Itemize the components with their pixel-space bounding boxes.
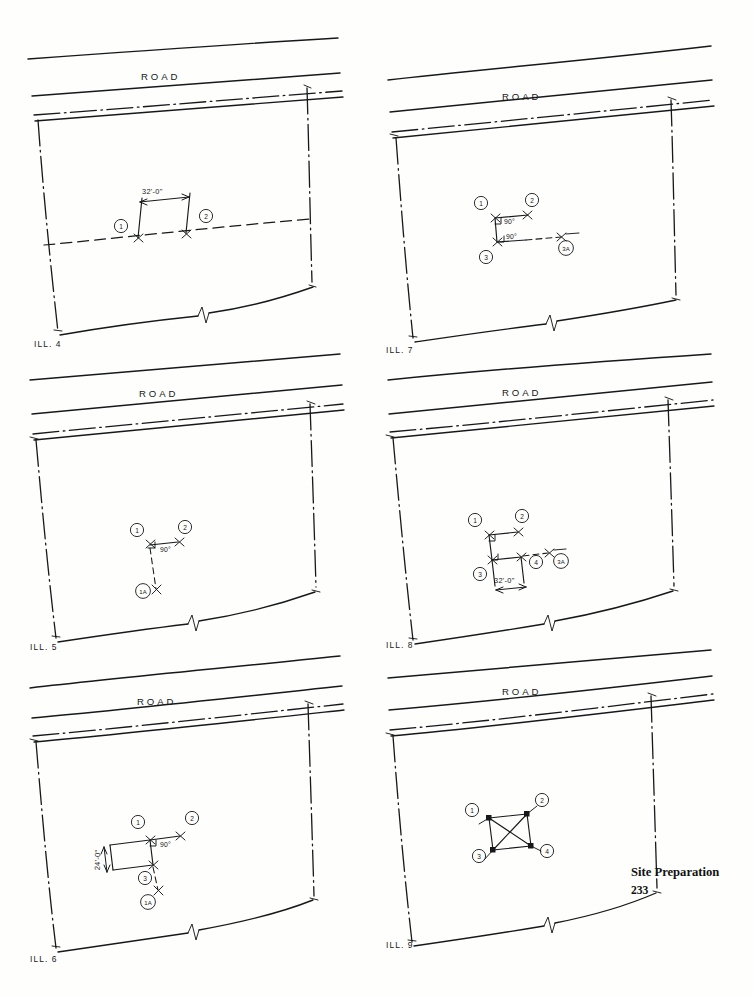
point-label-1A: 1A [144,900,151,906]
right-property-line [307,88,312,282]
point-label-1: 1 [473,517,477,524]
offset-line-pt1 [138,198,142,238]
road-label: ROAD [137,696,176,707]
point-label-2: 2 [520,513,524,520]
road-far-edge [388,650,711,678]
left-property-line [36,742,56,948]
road-label: ROAD [139,388,178,399]
rear-property-line-left [414,926,544,946]
stake-1 [486,815,492,821]
point-marker-3: 3 [479,250,492,263]
layout-line-4-down [521,557,524,583]
layout-line-1-3 [150,840,153,865]
rear-property-line-right [199,900,313,930]
building-setback-line [44,219,310,245]
road-near-edge [32,686,342,718]
leader-line-3A [526,237,561,240]
ill8-drawing: 32'-0" 1 2 3 4 [376,352,736,652]
right-property-line [308,704,314,896]
figure-caption-ill6: ILL. 6 [30,954,58,964]
layout-line-bottom [113,865,153,870]
layout-line-1-2 [489,532,518,535]
corner-tick-tr [305,701,313,704]
right-of-way-line [34,91,342,115]
figure-ill8: 32'-0" 1 2 3 4 [376,352,736,652]
figure-ill4: 32'-0" 1 2 ROAD ILL. 4 [20,30,370,360]
page-footer: Site Preparation 233 [631,862,719,901]
point-label-3A: 3A [557,559,564,565]
diagonal-2-3 [493,814,527,850]
road-near-edge [390,80,712,112]
point-marker-3A: 3A [554,554,569,569]
point-marker-1: 1 [131,815,144,828]
road-far-edge [388,354,711,380]
point-marker-2: 2 [525,193,538,206]
left-property-line [396,138,413,338]
right-of-way-line [390,694,713,730]
stake-4 [528,843,534,849]
corner-tick-bl [52,946,60,947]
stake-3 [490,847,496,853]
right-of-way-line [33,404,343,434]
layout-line-1-2 [150,542,178,545]
road-near-edge [32,385,342,414]
point-marker-1: 1 [130,523,143,536]
figure-caption-ill9: ILL. 9 [386,940,414,950]
road-near-edge [389,382,712,414]
point-label-4: 4 [545,848,549,855]
point-marker-3: 3 [473,567,486,580]
point-label-3: 3 [484,254,488,261]
corner-tick-tr [304,85,311,88]
point-label-1: 1 [470,807,474,814]
point-marker-1: 1 [114,219,127,232]
rear-property-line-left [60,316,198,335]
corner-tick-tr [648,693,656,696]
corner-tick-br [670,589,678,591]
rear-property-line-left [415,324,546,342]
front-property-line [391,406,714,438]
point-marker-2: 2 [185,811,198,824]
point-label-1: 1 [479,200,483,207]
point-label-3: 3 [143,875,147,882]
corner-tick-tr [307,401,315,404]
road-far-edge [30,354,340,380]
corner-tick-br [312,590,320,592]
page-sheet: 32'-0" 1 2 ROAD ILL. 4 [0,0,754,996]
rear-property-line-left [415,624,544,644]
road-label: ROAD [502,686,541,697]
rear-property-line-left [58,933,188,952]
left-property-line [393,736,412,942]
angle-label: 90° [160,546,171,553]
point-marker-2: 2 [178,520,191,533]
ill9-drawing: 1 2 3 4 ROAD ILL. 9 [376,648,736,968]
dimension-label-24: 24'-0" [93,849,103,870]
right-of-way-line [392,100,713,132]
corner-tick-tl [30,437,38,439]
road-near-edge [32,73,340,96]
road-far-edge [30,656,340,688]
point-marker-4: 4 [540,844,553,857]
front-property-line [393,106,714,138]
right-of-way-line [390,400,713,432]
point-marker-1A: 1A [136,584,151,599]
front-property-line [35,97,343,121]
layout-line-1-3 [489,535,492,560]
layout-line-1-2 [489,814,527,818]
left-property-line [38,120,58,332]
right-property-line [310,404,316,587]
stake-3A-flag [566,233,579,234]
stake-2 [524,811,530,817]
ill7-drawing: 90° 90° 1 2 3 3A ROAD ILL. [376,30,736,360]
dimension-label-32: 32'-0" [494,576,515,585]
figure-ill6: 90° 24'-0" 1 2 3 1 [20,648,370,968]
front-property-line [34,410,344,440]
point-label-3A: 3A [562,246,569,252]
point-marker-1: 1 [474,196,487,209]
offset-line-pt2 [186,193,190,233]
rear-property-line-left [58,624,188,642]
point-marker-3: 3 [472,849,485,862]
stake-3A-flag [554,549,566,550]
point-label-1: 1 [135,527,139,534]
angle-label: 90° [160,841,171,848]
corner-tick-br [310,898,318,900]
